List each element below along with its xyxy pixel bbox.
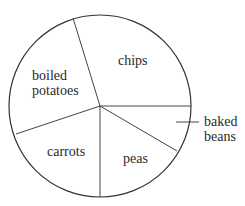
pie-chart [0, 0, 245, 206]
label-baked-beans-line1: baked [204, 114, 237, 129]
label-chips: chips [118, 53, 148, 68]
label-carrots: carrots [47, 144, 85, 159]
label-boiled-potatoes-line2: potatoes [32, 83, 79, 98]
label-boiled-potatoes-line1: boiled [32, 68, 79, 83]
label-baked-beans-line2: beans [204, 129, 237, 144]
label-baked-beans: baked beans [204, 114, 237, 144]
label-peas: peas [123, 151, 148, 166]
label-boiled-potatoes: boiled potatoes [32, 68, 79, 98]
